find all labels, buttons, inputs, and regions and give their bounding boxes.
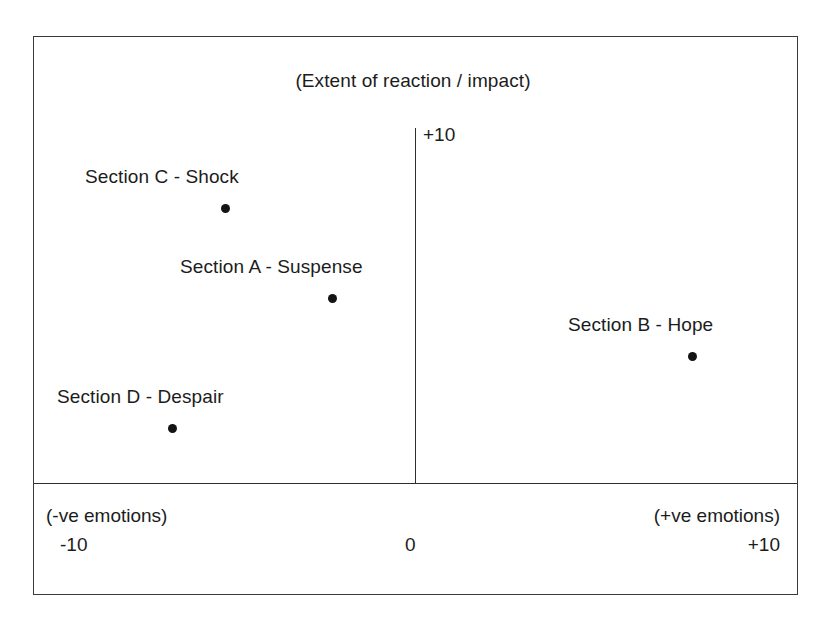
x-axis-negative-note: (-ve emotions) xyxy=(46,505,167,527)
x-axis-line xyxy=(34,483,797,484)
data-point-section-b xyxy=(688,352,697,361)
x-axis-max-value: +10 xyxy=(748,534,780,556)
chart-canvas: (Extent of reaction / impact) +10 Sectio… xyxy=(0,0,826,630)
point-label-section-d: Section D - Despair xyxy=(57,386,224,408)
data-point-section-a xyxy=(328,294,337,303)
data-point-section-d xyxy=(168,424,177,433)
point-label-section-c: Section C - Shock xyxy=(85,166,239,188)
y-axis-max-label: +10 xyxy=(423,124,455,146)
data-point-section-c xyxy=(221,204,230,213)
x-axis-zero-value: 0 xyxy=(405,534,416,556)
point-label-section-b: Section B - Hope xyxy=(568,314,713,336)
y-axis-line xyxy=(415,128,416,484)
x-axis-positive-note: (+ve emotions) xyxy=(654,505,780,527)
chart-title: (Extent of reaction / impact) xyxy=(0,70,826,92)
x-axis-min-value: -10 xyxy=(60,534,87,556)
point-label-section-a: Section A - Suspense xyxy=(180,256,363,278)
